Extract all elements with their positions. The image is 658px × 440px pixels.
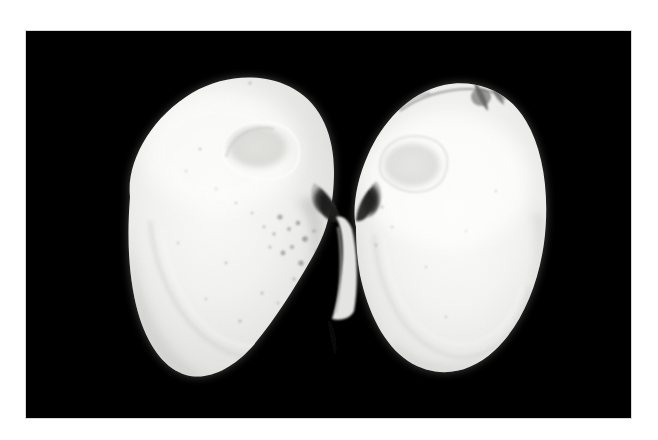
screenshot-root [0,0,658,440]
specimen-layer [26,31,631,418]
right-valve-grain [342,67,566,391]
dust-speck-icon [248,81,251,84]
photo-background-plate [26,31,631,418]
left-valve-group [116,71,356,391]
hinge-gap-shadow [340,179,351,213]
right-valve-group [342,67,566,391]
ligament-bridge [332,217,357,320]
left-valve-grain [116,71,356,391]
hinge-lower-slit [328,319,337,359]
bivalve-shell-illustration [26,31,631,418]
